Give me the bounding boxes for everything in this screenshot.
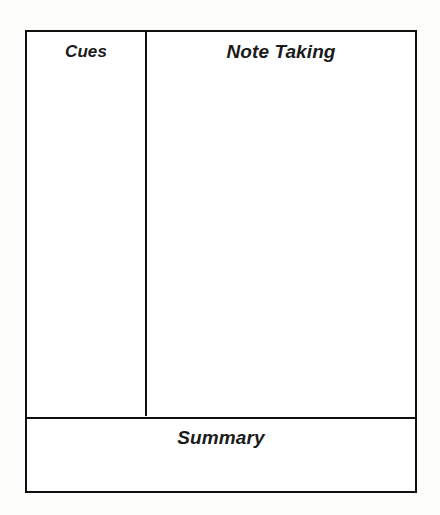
cues-heading: Cues bbox=[27, 42, 145, 62]
summary-section[interactable]: Summary bbox=[27, 417, 415, 491]
summary-writing-area[interactable] bbox=[27, 455, 415, 491]
upper-region: Cues Note Taking bbox=[27, 32, 415, 416]
summary-heading: Summary bbox=[27, 427, 415, 449]
note-taking-heading: Note Taking bbox=[147, 41, 415, 63]
note-taking-column[interactable]: Note Taking bbox=[147, 32, 415, 416]
page-background: Cues Note Taking Summary bbox=[0, 0, 440, 515]
cornell-notes-sheet: Cues Note Taking Summary bbox=[25, 30, 417, 493]
note-taking-writing-area[interactable] bbox=[147, 70, 415, 416]
cues-writing-area[interactable] bbox=[27, 68, 145, 416]
cues-column[interactable]: Cues bbox=[27, 32, 147, 416]
